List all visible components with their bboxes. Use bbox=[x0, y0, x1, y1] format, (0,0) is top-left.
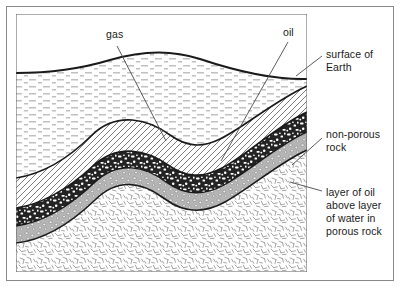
figure-container: gas oil surface of Earth non-porous rock… bbox=[0, 0, 401, 287]
label-gas: gas bbox=[106, 28, 123, 41]
label-non-porous-rock: non-porous rock bbox=[326, 128, 380, 154]
label-oil: oil bbox=[283, 26, 294, 39]
label-surface-of-earth: surface of Earth bbox=[326, 48, 373, 74]
label-oil-water-porous-rock: layer of oil above layer of water in por… bbox=[326, 186, 382, 238]
